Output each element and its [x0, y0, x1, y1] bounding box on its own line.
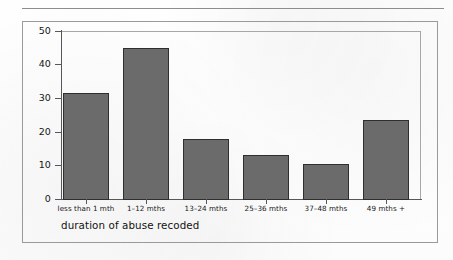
y-tick-30 — [55, 98, 61, 99]
x-axis-title: duration of abuse recoded — [61, 219, 199, 231]
y-tick-label-50: 50 — [23, 26, 51, 36]
y-tick-label-50-wrap: 50 — [20, 26, 51, 36]
y-tick-label-10-wrap: 10 — [20, 160, 51, 170]
y-tick-label-40: 40 — [23, 59, 51, 69]
bar-less-than-1-mth — [63, 93, 109, 200]
y-tick-40 — [55, 64, 61, 65]
y-tick-label-30: 30 — [23, 93, 51, 103]
bar-1-12-mths — [123, 48, 169, 200]
y-tick-label-40-wrap: 40 — [20, 59, 51, 69]
y-tick-label-20-wrap: 20 — [20, 127, 51, 137]
y-tick-label-0-wrap: 0 — [20, 194, 51, 204]
y-tick-0 — [55, 199, 61, 200]
bar-49-mths-plus — [363, 120, 409, 200]
y-tick-50 — [55, 31, 61, 32]
bar-13-24-mths — [183, 139, 229, 200]
y-tick-label-0: 0 — [23, 194, 51, 204]
bar-37-48-mths — [303, 164, 349, 200]
bar-25-36-mths — [243, 155, 289, 200]
page-horizontal-rule — [22, 8, 444, 9]
y-tick-label-30-wrap: 30 — [20, 93, 51, 103]
y-tick-20 — [55, 132, 61, 133]
y-tick-label-20: 20 — [23, 127, 51, 137]
y-tick-10 — [55, 165, 61, 166]
y-axis-line — [61, 30, 62, 200]
y-tick-label-10: 10 — [23, 160, 51, 170]
x-tick-label-6: 49 mths + — [351, 204, 421, 213]
